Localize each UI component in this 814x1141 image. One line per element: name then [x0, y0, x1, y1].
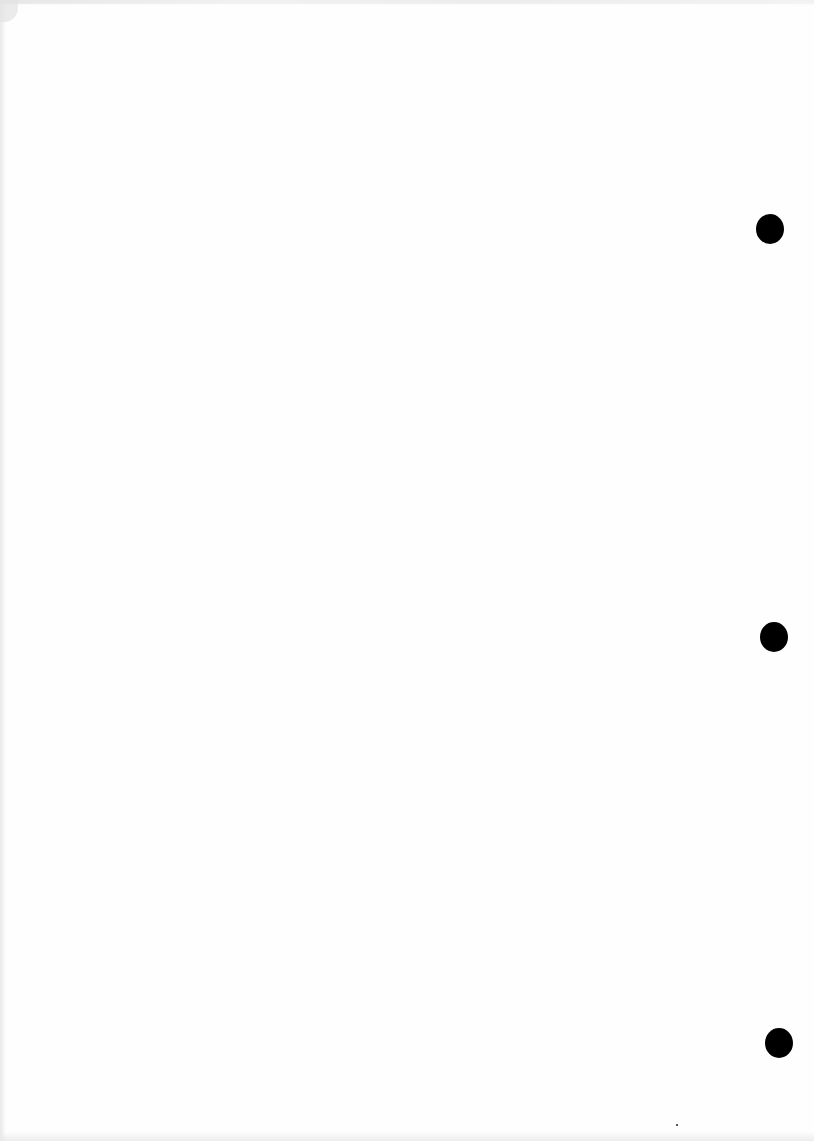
- punch-hole-top: [756, 214, 784, 244]
- folded-corner: [0, 0, 18, 22]
- page-top-edge: [0, 0, 814, 4]
- punch-hole-bottom: [765, 1028, 793, 1058]
- punch-hole-middle: [760, 622, 788, 652]
- page-left-edge: [0, 0, 6, 1141]
- dust-speck: [676, 1124, 678, 1126]
- blank-page: [0, 0, 814, 1141]
